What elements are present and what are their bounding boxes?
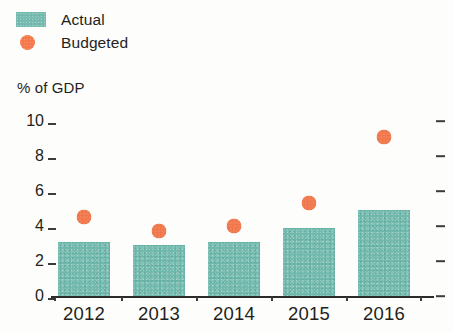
y-axis-tick-2: 2 bbox=[35, 253, 56, 269]
x-axis-tickmark bbox=[420, 297, 422, 301]
right-axis-tick-8 bbox=[436, 155, 445, 157]
budget-dot-2012 bbox=[77, 210, 92, 225]
x-axis-tickmark bbox=[121, 297, 123, 301]
bar-2013 bbox=[133, 245, 185, 296]
bar-chart: Actual Budgeted % of GDP 0 2 4 bbox=[0, 0, 453, 332]
x-axis-tickmark bbox=[271, 297, 273, 301]
bar-2016 bbox=[358, 210, 410, 296]
budget-dot-2015 bbox=[302, 196, 317, 211]
x-axis-label-2015: 2015 bbox=[288, 303, 330, 325]
x-axis-label-2016: 2016 bbox=[363, 303, 405, 325]
x-axis-tickmark bbox=[54, 297, 56, 301]
budget-dot-2016 bbox=[377, 129, 392, 144]
right-axis-tick-6 bbox=[436, 190, 445, 192]
x-axis-line bbox=[51, 296, 434, 298]
x-axis-label-2014: 2014 bbox=[213, 303, 255, 325]
right-axis-tick-0 bbox=[436, 295, 445, 297]
x-axis-tickmark bbox=[196, 297, 198, 301]
right-axis-tick-2 bbox=[436, 260, 445, 262]
x-axis-tickmark bbox=[346, 297, 348, 301]
bar-2014 bbox=[208, 242, 260, 296]
y-axis-tick-8: 8 bbox=[35, 148, 56, 164]
x-axis-label-2012: 2012 bbox=[63, 303, 105, 325]
y-axis-tick-6: 6 bbox=[35, 183, 56, 199]
x-axis-label-2013: 2013 bbox=[138, 303, 180, 325]
budget-dot-2014 bbox=[227, 219, 242, 234]
y-axis-tick-4: 4 bbox=[35, 218, 56, 234]
right-axis-tick-10 bbox=[436, 120, 445, 122]
budget-dot-2013 bbox=[152, 224, 167, 239]
right-axis-tick-4 bbox=[436, 225, 445, 227]
y-axis-tick-10: 10 bbox=[26, 113, 56, 129]
plot-area: 0 2 4 6 8 10 bbox=[0, 0, 453, 332]
bar-2015 bbox=[283, 228, 335, 296]
bar-2012 bbox=[58, 242, 110, 296]
